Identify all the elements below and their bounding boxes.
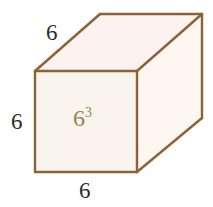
dimension-label-depth: 6 bbox=[46, 21, 58, 44]
volume-expression-label: 63 bbox=[73, 106, 92, 130]
volume-exponent: 3 bbox=[85, 105, 92, 120]
volume-base: 6 bbox=[73, 105, 85, 131]
cube-diagram: 6 6 6 63 bbox=[0, 0, 213, 207]
dimension-label-height: 6 bbox=[11, 110, 23, 133]
dimension-label-width: 6 bbox=[79, 179, 91, 202]
cube-svg bbox=[0, 0, 213, 207]
